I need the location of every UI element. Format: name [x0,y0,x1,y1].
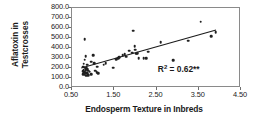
data-point [200,20,203,23]
y-axis-title: Aflatoxin in Testcrosses [0,0,44,90]
data-point [125,55,128,58]
data-point [112,66,115,69]
x-tick-label: 0.50 [64,91,78,98]
data-point [85,75,88,78]
y-tick-label: 700.0 [42,13,69,20]
x-axis-title: Endosperm Texture in Inbreds [44,104,244,114]
data-point [92,54,95,57]
y-tick-label: 500.0 [42,33,69,40]
data-point [172,59,175,62]
y-tick-mark [68,37,71,38]
data-point [210,35,213,38]
r-squared-suffix: = 0.62** [167,64,199,74]
plot-area [71,7,240,87]
data-point [105,62,108,65]
y-tick-label: 100.0 [42,73,69,80]
data-point [131,51,134,54]
trendline [72,8,239,86]
x-tick-label: 2.50 [149,91,163,98]
data-point [97,72,100,75]
y-tick-mark [68,17,71,18]
y-tick-label: 300.0 [42,53,69,60]
data-point [84,55,87,58]
r-squared-annotation: R2 = 0.62** [158,63,200,74]
data-point [132,29,135,32]
data-point [145,57,148,60]
x-tick-mark [113,87,114,90]
x-tick-mark [240,87,241,90]
data-point [134,48,137,51]
data-point [93,62,96,65]
y-tick-mark [68,47,71,48]
x-tick-mark [198,87,199,90]
y-tick-mark [68,67,71,68]
x-tick-mark [156,87,157,90]
data-point [90,73,93,76]
y-axis-title-line-2: Testcrosses [20,21,30,68]
x-axis-tick-labels: 0.501.502.503.504.50 [71,91,240,101]
y-tick-label: 200.0 [42,63,69,70]
y-tick-mark [68,7,71,8]
x-tick-label: 4.50 [233,91,247,98]
data-point [118,56,121,59]
data-point [187,39,190,42]
y-axis-tick-labels: 0.0100.0200.0300.0400.0500.0600.0700.080… [42,7,69,87]
data-point [86,63,89,66]
data-point [83,58,86,61]
data-point [136,52,139,55]
chart-figure: Aflatoxin in Testcrosses 0.0100.0200.030… [0,0,264,123]
data-point [159,41,162,44]
x-tick-label: 3.50 [191,91,205,98]
data-point [83,38,86,41]
data-point [133,45,136,48]
y-tick-mark [68,27,71,28]
y-axis-title-line-1: Aflatoxin in [11,21,21,68]
y-tick-label: 600.0 [42,23,69,30]
x-tick-label: 1.50 [106,91,120,98]
data-point [96,65,99,68]
data-point [147,50,150,53]
y-tick-mark [68,57,71,58]
y-tick-label: 800.0 [42,3,69,10]
data-point [214,31,217,34]
x-tick-mark [71,87,72,90]
y-tick-label: 400.0 [42,43,69,50]
y-tick-mark [68,77,71,78]
data-point [137,57,140,60]
